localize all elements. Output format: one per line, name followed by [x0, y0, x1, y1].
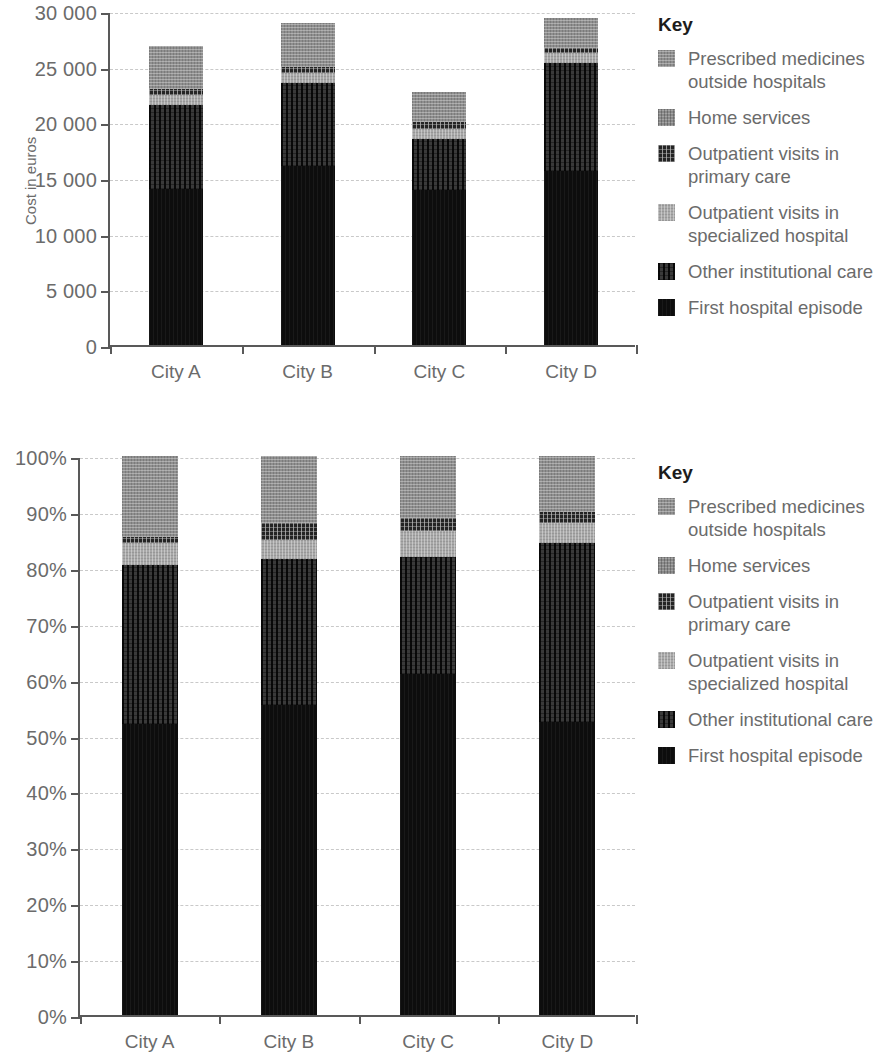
legend-swatch-first-icon: [658, 747, 675, 764]
bar-segment-outprim: [400, 518, 456, 532]
bar-segment-otherinst: [261, 559, 317, 704]
legend-item-first: First hospital episode: [658, 744, 884, 767]
y-axis-tick: [101, 347, 110, 349]
legend-title: Key: [658, 462, 884, 484]
x-axis-tick: [505, 345, 507, 354]
y-axis-tick: [71, 849, 80, 851]
legend-item-outspec: Outpatient visits in specialized hospita…: [658, 201, 884, 247]
legend-item-label: Outpatient visits in specialized hospita…: [688, 649, 848, 695]
legend-item-label: Home services: [688, 554, 810, 577]
y-axis-tick: [71, 738, 80, 740]
legend-item-first: First hospital episode: [658, 296, 884, 319]
legend-swatch-outspec-icon: [658, 204, 675, 221]
bar-segment-otherinst: [400, 557, 456, 674]
bar-segment-otherinst: [412, 139, 466, 190]
y-axis-tick-label: 20%: [26, 894, 67, 917]
percentage-share-chart: 0%10%20%30%40%50%60%70%80%90%100%City AC…: [0, 440, 650, 1052]
legend-swatch-outprim-icon: [658, 145, 675, 162]
bar-segment-first: [539, 722, 595, 1015]
x-axis-tick: [242, 345, 244, 354]
bar-segment-outprim: [412, 122, 466, 129]
bar-segment-outprim: [539, 512, 595, 523]
bar-segment-first: [544, 171, 598, 345]
y-axis-tick-label: 20 000: [35, 113, 97, 136]
legend-title: Key: [658, 14, 884, 36]
legend-item-home: Home services: [658, 554, 884, 577]
legend-swatch-home-icon: [658, 109, 675, 126]
legend-item-outprim: Outpatient visits in primary care: [658, 590, 884, 636]
figure-page: Cost in euros 05 00010 00015 00020 00025…: [0, 0, 888, 1052]
bar-segment-otherinst: [539, 543, 595, 722]
legend-swatch-presc-icon: [658, 498, 675, 515]
x-axis-tick-label: City B: [282, 361, 333, 383]
bar-segment-presc: [539, 456, 595, 512]
y-axis-tick: [101, 291, 110, 293]
legend-swatch-outprim-icon: [658, 593, 675, 610]
bar-segment-first: [412, 190, 466, 345]
x-axis-tick-label: City A: [151, 361, 201, 383]
y-axis-tick: [101, 236, 110, 238]
bar-segment-outspec: [149, 95, 203, 105]
stacked-bar: [122, 456, 178, 1015]
bar-segment-outspec: [400, 531, 456, 556]
legend-top: Key Prescribed medicines outside hospita…: [658, 14, 884, 332]
y-axis-tick-label: 0: [86, 336, 97, 359]
y-axis-tick-label: 5 000: [46, 280, 97, 303]
x-axis-tick: [374, 345, 376, 354]
bar-segment-presc: [400, 456, 456, 517]
y-axis-tick-label: 10 000: [35, 224, 97, 247]
y-axis-tick-label: 70%: [26, 614, 67, 637]
legend-item-label: Prescribed medicines outside hospitals: [688, 495, 865, 541]
x-axis-tick-label: City B: [264, 1031, 315, 1052]
x-axis-tick: [359, 1015, 361, 1024]
y-axis-tick-label: 80%: [26, 558, 67, 581]
y-axis-tick-label: 10%: [26, 950, 67, 973]
x-axis-tick-label: City D: [545, 361, 597, 383]
x-axis-tick: [636, 345, 638, 354]
bar-segment-first: [261, 705, 317, 1015]
y-axis-tick: [71, 961, 80, 963]
legend-item-label: Outpatient visits in primary care: [688, 142, 839, 188]
bar-segment-presc: [281, 23, 335, 66]
bar-segment-outprim: [261, 523, 317, 540]
legend-swatch-outspec-icon: [658, 652, 675, 669]
x-axis-tick-label: City A: [125, 1031, 175, 1052]
legend-item-label: Outpatient visits in primary care: [688, 590, 839, 636]
legend-item-outspec: Outpatient visits in specialized hospita…: [658, 649, 884, 695]
y-axis-tick-label: 15 000: [35, 169, 97, 192]
bar-segment-presc: [412, 92, 466, 122]
bar-segment-outspec: [281, 73, 335, 83]
x-axis-tick-label: City D: [542, 1031, 594, 1052]
y-axis-tick: [101, 124, 110, 126]
y-axis-tick-label: 90%: [26, 502, 67, 525]
y-axis-tick: [101, 69, 110, 71]
legend-swatch-presc-icon: [658, 50, 675, 67]
legend-item-otherinst: Other institutional care: [658, 708, 884, 731]
bar-segment-presc: [544, 18, 598, 48]
legend-swatch-otherinst-icon: [658, 711, 675, 728]
x-axis-tick: [498, 1015, 500, 1024]
y-axis-tick: [71, 626, 80, 628]
y-axis-tick: [71, 570, 80, 572]
bar-segment-first: [281, 166, 335, 345]
y-axis-tick: [71, 682, 80, 684]
x-axis-tick-label: City C: [414, 361, 466, 383]
y-axis-tick: [71, 1017, 80, 1019]
x-axis-tick: [636, 1015, 638, 1024]
bar-segment-otherinst: [281, 83, 335, 165]
bar-segment-outspec: [544, 53, 598, 63]
bar-segment-outspec: [122, 543, 178, 565]
y-axis-tick: [71, 458, 80, 460]
stacked-bar: [539, 456, 595, 1015]
y-axis-tick-label: 40%: [26, 782, 67, 805]
bar-segment-presc: [149, 46, 203, 89]
legend-item-label: Other institutional care: [688, 708, 873, 731]
legend-item-presc: Prescribed medicines outside hospitals: [658, 495, 884, 541]
stacked-bar: [149, 11, 203, 345]
y-axis-tick: [71, 905, 80, 907]
x-axis-tick: [219, 1015, 221, 1024]
stacked-bar: [412, 11, 466, 345]
x-axis-tick: [80, 1015, 82, 1024]
y-axis-tick-label: 30%: [26, 838, 67, 861]
y-axis-tick-label: 100%: [15, 447, 67, 470]
